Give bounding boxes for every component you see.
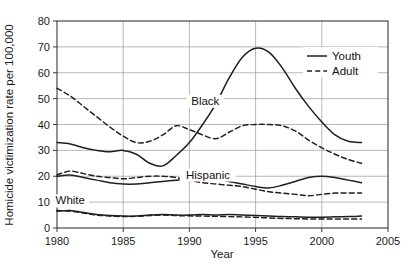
y-tick-label: 70 bbox=[38, 41, 50, 53]
annotation-label-hispanic: Hispanic bbox=[186, 169, 230, 181]
y-tick-label: 40 bbox=[38, 119, 50, 131]
y-tick-label: 20 bbox=[38, 170, 50, 182]
line-chart: 01020304050607080 1980198519901995200020… bbox=[0, 0, 411, 272]
annotation-label-white: White bbox=[56, 194, 85, 206]
chart-legend: YouthAdult bbox=[303, 47, 378, 77]
annotation-label-black: Black bbox=[191, 95, 219, 107]
legend-label-youth: Youth bbox=[332, 50, 361, 62]
y-tick-label: 0 bbox=[44, 222, 50, 234]
x-tick-label: 2005 bbox=[376, 235, 400, 247]
y-tick-label: 80 bbox=[38, 15, 50, 27]
y-axis-title: Homicide victimization rate per 100,000 bbox=[3, 24, 15, 225]
x-tick-label: 1985 bbox=[111, 235, 135, 247]
chart-figure: 01020304050607080 1980198519901995200020… bbox=[0, 0, 411, 272]
x-axis-title: Year bbox=[210, 248, 233, 260]
x-tick-label: 1995 bbox=[243, 235, 267, 247]
x-tick-label: 1990 bbox=[177, 235, 201, 247]
x-tick-label: 1980 bbox=[45, 235, 69, 247]
y-tick-label: 10 bbox=[38, 196, 50, 208]
y-tick-label: 60 bbox=[38, 67, 50, 79]
y-tick-label: 30 bbox=[38, 144, 50, 156]
x-tick-label: 2000 bbox=[310, 235, 334, 247]
y-tick-label: 50 bbox=[38, 93, 50, 105]
legend-label-adult: Adult bbox=[332, 65, 359, 77]
